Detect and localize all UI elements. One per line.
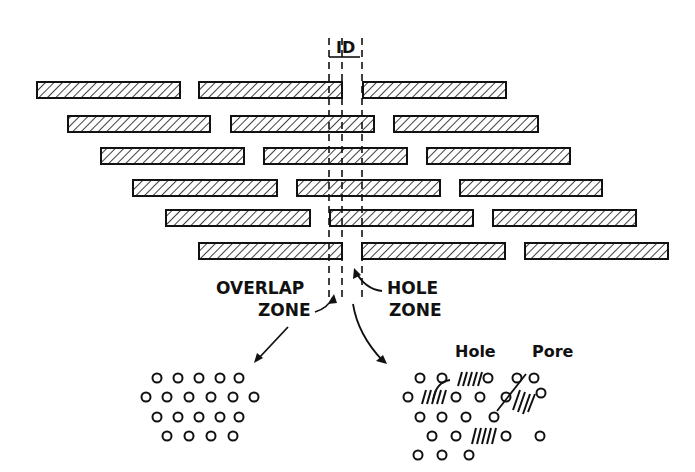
hatched-bar: [363, 82, 506, 98]
hatched-bar: [297, 180, 440, 196]
hatched-bar: [199, 243, 342, 259]
dashed-zone-lines: [329, 38, 362, 300]
hatched-bar: [525, 243, 668, 259]
hatched-bar: [37, 82, 180, 98]
overlap-label-line1: OVERLAP: [216, 278, 304, 298]
hatched-bars: [37, 82, 668, 259]
hatched-bar: [493, 210, 636, 226]
hatched-bar: [394, 116, 538, 132]
hatched-bar: [460, 180, 602, 196]
hatched-bar: [166, 210, 310, 226]
overlap-label-line2: ZONE: [258, 300, 311, 320]
hole-callout: Hole: [455, 342, 496, 361]
hole-label-line2: ZONE: [389, 300, 442, 320]
id-dimension-marker: ID: [329, 38, 360, 57]
hatched-bar: [101, 148, 244, 164]
hatched-bar: [330, 210, 473, 226]
overlap-zone-pattern: [142, 374, 259, 441]
hole-zone-pattern: [404, 374, 546, 460]
hatched-bar: [199, 82, 342, 98]
hatched-bar: [231, 116, 374, 132]
pore-callout: Pore: [532, 342, 574, 361]
overlap-hole-zone-diagram: ID OVERLAP ZONE HOLE ZONE Hole Pore: [0, 0, 695, 472]
hatched-bar: [362, 243, 505, 259]
hatched-bar: [427, 148, 570, 164]
hatched-bar: [133, 180, 277, 196]
id-label: ID: [336, 38, 355, 57]
hole-label-line1: HOLE: [387, 278, 438, 298]
hatched-bar: [264, 148, 407, 164]
hatched-bar: [68, 116, 210, 132]
